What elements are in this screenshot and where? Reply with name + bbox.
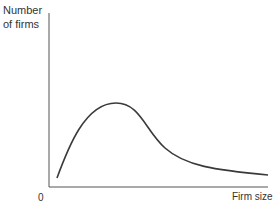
distribution-curve [57, 103, 268, 178]
origin-label: 0 [38, 192, 44, 203]
chart-plot [0, 0, 280, 211]
x-axis-label: Firm size [232, 191, 273, 202]
